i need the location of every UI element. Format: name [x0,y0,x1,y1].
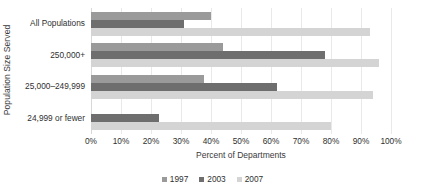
legend-entry: 2003 [199,174,225,184]
legend-swatch-icon [199,177,204,182]
category-axis-label: 24,999 or fewer [13,113,85,123]
x-axis-tick-label: 70% [293,136,310,146]
legend-label: 2007 [245,174,263,184]
bar-group [91,43,391,67]
bar [91,114,159,122]
category-axis-label: All Populations [13,18,85,28]
x-axis-tick-label: 30% [173,136,190,146]
legend-label: 2003 [207,174,225,184]
bars-layer [91,8,391,134]
x-axis-tick-label: 100% [380,136,401,146]
x-axis-tick-label: 90% [353,136,370,146]
bar-group [91,106,391,130]
gridline [391,8,392,134]
legend-swatch-icon [237,177,242,182]
x-axis-tick-label: 60% [263,136,280,146]
bar [91,91,373,99]
x-axis-tick-label: 0% [85,136,97,146]
bar-group [91,12,391,36]
x-axis-title: Percent of Departments [91,150,391,160]
x-axis-tick-label: 40% [203,136,220,146]
plot-area [91,8,391,134]
x-axis-tick-label: 20% [143,136,160,146]
bar [91,20,184,28]
bar [91,43,223,51]
bar-chart: Population Size Served All Populations25… [0,0,425,196]
bar-group [91,75,391,99]
bar [91,59,379,67]
category-axis-label: 25,000–249,999 [13,81,85,91]
bar [91,51,325,59]
y-axis-title-label: Population Size Served [2,25,12,116]
bar [91,83,277,91]
x-axis-tick-label: 10% [113,136,130,146]
bar [91,122,331,130]
x-axis-tick-labels: 0%10%20%30%40%50%60%70%80%90%100% [91,136,391,148]
chart-legend: 199720032007 [0,174,425,184]
legend-entry: 1997 [162,174,188,184]
legend-swatch-icon [162,177,167,182]
category-axis-label: 250,000+ [13,50,85,60]
category-axis-labels: All Populations250,000+25,000–249,99924,… [14,8,88,134]
legend-label: 1997 [170,174,188,184]
bar [91,28,370,36]
x-axis-tick-label: 80% [323,136,340,146]
y-axis-title: Population Size Served [0,0,14,140]
x-axis-tick-label: 50% [233,136,250,146]
bar [91,75,204,83]
legend-entry: 2007 [237,174,263,184]
bar [91,12,211,20]
